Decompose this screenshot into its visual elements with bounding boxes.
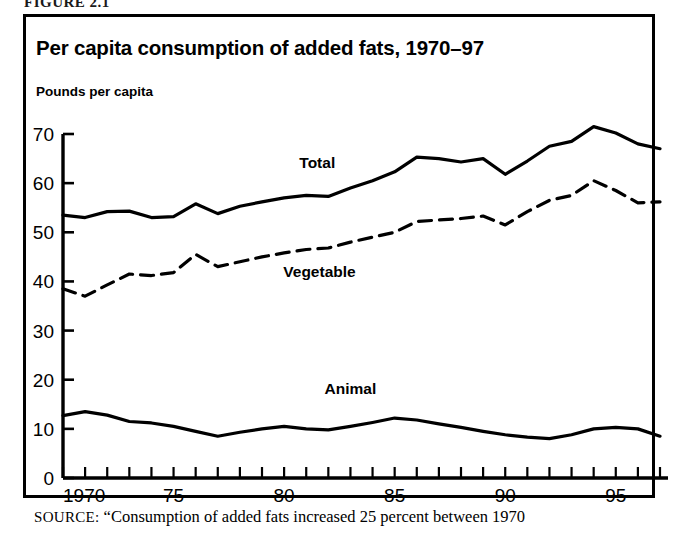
x-tick-label: 75: [163, 485, 184, 506]
y-tick-label: 20: [33, 370, 54, 391]
x-tick-label: 1970: [63, 485, 105, 506]
series-line: [63, 412, 660, 439]
source-note: SOURCE: “Consumption of added fats incre…: [34, 508, 654, 527]
series-label: Vegetable: [283, 263, 356, 280]
y-tick-label: 40: [33, 271, 54, 292]
x-tick-label: 85: [384, 485, 405, 506]
line-chart-plot: 010203040506070 19707580859095 TotalVege…: [0, 0, 679, 543]
y-tick-label: 70: [33, 124, 54, 145]
y-tick-label: 60: [33, 173, 54, 194]
y-axis: 010203040506070: [33, 124, 74, 489]
series-annotations: TotalVegetableAnimal: [283, 154, 376, 397]
source-kicker: SOURCE:: [34, 509, 99, 525]
x-tick-label: 80: [274, 485, 295, 506]
source-text: “Consumption of added fats increased 25 …: [104, 507, 526, 526]
y-tick-label: 50: [33, 222, 54, 243]
series-label: Animal: [325, 380, 377, 397]
x-axis: 19707580859095: [63, 467, 668, 506]
y-tick-label: 0: [43, 468, 54, 489]
series-line: [63, 127, 660, 218]
y-tick-label: 10: [33, 419, 54, 440]
series-label: Total: [299, 154, 335, 171]
x-tick-label: 95: [605, 485, 626, 506]
y-tick-label: 30: [33, 321, 54, 342]
x-tick-label: 90: [495, 485, 516, 506]
series-line: [63, 181, 660, 296]
